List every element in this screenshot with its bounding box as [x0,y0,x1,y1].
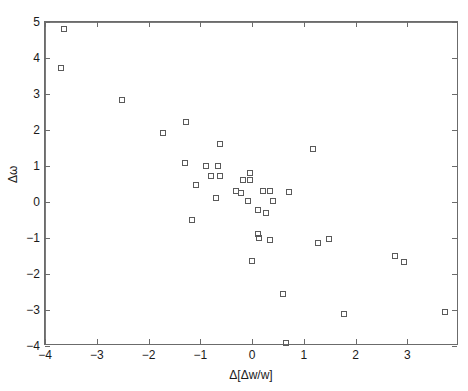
vertical-zero-reference-line [45,22,46,344]
data-point [267,188,273,194]
y-axis-tick [45,310,50,311]
data-point [280,291,286,297]
x-axis-tick-top [45,22,46,27]
y-axis-tick-right [452,22,457,23]
horizontal-zero-reference-line [45,22,457,23]
plot-area: −4−3−2−1012345−4−3−2−10123 [44,21,458,345]
x-axis-tick [356,339,357,344]
y-axis-tick-right [452,58,457,59]
data-point [182,160,188,166]
y-axis-tick-right [452,310,457,311]
x-axis-tick-top [252,22,253,27]
y-axis-tick [45,274,50,275]
y-axis-tick-right [452,238,457,239]
data-point [283,340,289,346]
data-point [341,311,347,317]
x-axis-tick [97,339,98,344]
data-point [392,253,398,259]
data-point [238,190,244,196]
x-axis-tick-top [304,22,305,27]
data-point [263,210,269,216]
x-axis-tick [304,339,305,344]
x-axis-tick-label: −1 [193,348,207,362]
data-point [203,163,209,169]
data-point [256,235,262,241]
data-point [247,170,253,176]
x-axis-tick-label: −2 [142,348,156,362]
data-point [310,146,316,152]
data-point [315,240,321,246]
y-axis-tick-label: −1 [26,231,40,245]
x-axis-tick-label: −3 [90,348,104,362]
y-axis-tick-label: 1 [33,159,40,173]
y-axis-title: Δω [6,166,20,183]
chart-page: −4−3−2−1012345−4−3−2−10123 Δ[Δw/w] Δω [0,0,468,391]
y-axis-tick [45,202,50,203]
y-axis-tick-label: 2 [33,123,40,137]
y-axis-tick-label: 5 [33,15,40,29]
data-point [245,198,251,204]
x-axis-tick [149,339,150,344]
y-axis-tick [45,94,50,95]
data-point [208,173,214,179]
y-axis-tick-label: 4 [33,51,40,65]
y-axis-tick-label: −3 [26,303,40,317]
x-axis-tick-top [407,22,408,27]
y-axis-tick [45,238,50,239]
data-point [270,198,276,204]
data-point [58,65,64,71]
x-axis-tick [45,339,46,344]
data-point [401,259,407,265]
y-axis-tick [45,130,50,131]
x-axis-tick-label: 1 [300,348,307,362]
x-axis-tick [252,339,253,344]
data-point [247,177,253,183]
y-axis-tick [45,58,50,59]
x-axis-title: Δ[Δw/w] [44,368,458,382]
y-axis-tick-label: −2 [26,267,40,281]
x-axis-tick-label: −4 [38,348,52,362]
x-axis-tick-label: 3 [404,348,411,362]
y-axis-tick [45,346,50,347]
data-point [215,163,221,169]
data-point [240,177,246,183]
x-axis-tick-label: 2 [352,348,359,362]
data-point [326,236,332,242]
y-axis-tick-right [452,166,457,167]
x-axis-tick-top [356,22,357,27]
y-axis-tick-label: 3 [33,87,40,101]
data-point [160,130,166,136]
y-axis-tick-right [452,274,457,275]
x-axis-tick [200,339,201,344]
data-point [119,97,125,103]
y-axis-tick-right [452,130,457,131]
data-point [193,182,199,188]
y-axis-tick-label: 0 [33,195,40,209]
data-point [213,195,219,201]
x-axis-tick-label: 0 [249,348,256,362]
data-point [255,207,261,213]
y-axis-tick-right [452,94,457,95]
data-point [61,26,67,32]
y-axis-tick [45,166,50,167]
data-point [286,189,292,195]
data-point [249,258,255,264]
data-point [183,119,189,125]
data-point [217,141,223,147]
data-point [217,173,223,179]
x-axis-tick-top [200,22,201,27]
data-point [267,237,273,243]
x-axis-tick-top [97,22,98,27]
x-axis-tick-top [149,22,150,27]
data-point [189,217,195,223]
y-axis-tick-right [452,202,457,203]
y-axis-tick-right [452,346,457,347]
x-axis-tick [407,339,408,344]
data-point [260,188,266,194]
data-point [442,309,448,315]
